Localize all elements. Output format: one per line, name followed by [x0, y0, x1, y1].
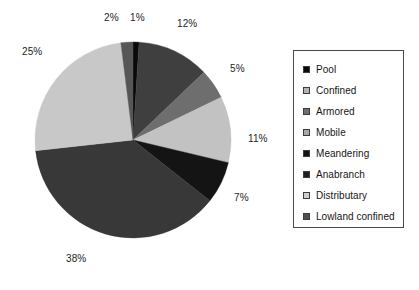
legend-label: Lowland confined: [316, 211, 395, 222]
legend-swatch-icon-anabranch: [303, 171, 310, 178]
legend-item-distributary[interactable]: Distributary: [303, 185, 399, 205]
legend-item-anabranch[interactable]: Anabranch: [303, 164, 399, 184]
legend-swatch-icon-meandering: [303, 150, 310, 157]
legend-item-mobile[interactable]: Mobile: [303, 122, 399, 142]
legend-item-list: PoolConfinedArmoredMobileMeanderingAnabr…: [303, 59, 399, 227]
legend-label: Mobile: [316, 127, 346, 138]
legend-swatch-icon-lowland-confined: [303, 213, 310, 220]
legend-swatch-icon-mobile: [303, 129, 310, 136]
pie-label-pool: 1%: [130, 12, 145, 23]
pie-label-armored: 5%: [230, 63, 245, 74]
legend-label: Confined: [316, 85, 356, 96]
pie-chart-graphic: [33, 40, 233, 240]
legend-label: Anabranch: [316, 169, 365, 180]
legend-label: Distributary: [316, 190, 367, 201]
pie-label-anabranch: 38%: [66, 253, 86, 264]
legend-item-confined[interactable]: Confined: [303, 80, 399, 100]
legend-swatch-icon-pool: [303, 66, 310, 73]
pie-label-lowland-confined: 2%: [104, 12, 119, 23]
legend-label: Pool: [316, 64, 336, 75]
legend-swatch-icon-distributary: [303, 192, 310, 199]
legend-item-pool[interactable]: Pool: [303, 59, 399, 79]
pie-svg: [33, 40, 233, 240]
pie-chart-figure: 2% 1% 12% 5% 11% 7% 38% 25% PoolConfined…: [0, 0, 419, 290]
legend-item-lowland-confined[interactable]: Lowland confined: [303, 206, 399, 226]
pie-slice-group: [35, 42, 231, 238]
legend-item-meandering[interactable]: Meandering: [303, 143, 399, 163]
legend-item-armored[interactable]: Armored: [303, 101, 399, 121]
legend-swatch-icon-armored: [303, 108, 310, 115]
legend-label: Meandering: [316, 148, 369, 159]
pie-label-mobile: 11%: [248, 133, 268, 144]
legend-label: Armored: [316, 106, 355, 117]
legend-swatch-icon-confined: [303, 87, 310, 94]
chart-legend: PoolConfinedArmoredMobileMeanderingAnabr…: [293, 50, 404, 228]
pie-label-distributary: 25%: [22, 46, 42, 57]
pie-label-meandering: 7%: [234, 192, 249, 203]
pie-label-confined: 12%: [177, 18, 197, 29]
pie-slice-distributary[interactable]: [35, 43, 133, 151]
